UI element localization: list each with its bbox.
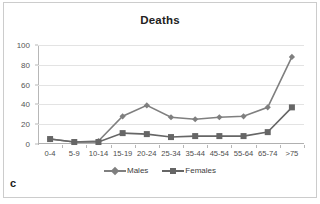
x-tick-label: >75 — [285, 149, 298, 158]
data-point-marker — [240, 113, 246, 119]
data-point-marker — [289, 54, 295, 60]
x-tick-mark — [256, 145, 257, 148]
x-tick-label: 25-34 — [161, 149, 180, 158]
data-point-marker — [241, 133, 247, 139]
chart-title: Deaths — [0, 14, 320, 26]
x-tick-mark — [62, 145, 63, 148]
y-tick-label: 20 — [21, 120, 30, 129]
legend-item-females[interactable]: Females — [162, 166, 216, 175]
data-point-marker — [289, 104, 295, 110]
x-tick-mark — [135, 145, 136, 148]
panel-letter: c — [10, 178, 16, 189]
x-tick-mark — [159, 145, 160, 148]
x-tick-label: 20-24 — [137, 149, 156, 158]
x-tick-mark — [231, 145, 232, 148]
x-tick-label: 10-14 — [89, 149, 108, 158]
x-tick-mark — [304, 145, 305, 148]
legend-label: Males — [127, 166, 148, 175]
x-tick-mark — [207, 145, 208, 148]
y-tick-label: 60 — [21, 80, 30, 89]
legend-label: Females — [185, 166, 216, 175]
plot-area — [38, 45, 304, 144]
legend-swatch-icon — [104, 167, 126, 175]
data-point-marker — [265, 104, 271, 110]
data-point-marker — [216, 114, 222, 120]
x-tick-label: 5-9 — [69, 149, 80, 158]
x-tick-label: 45-54 — [210, 149, 229, 158]
series-layer — [38, 45, 304, 144]
x-tick-mark — [280, 145, 281, 148]
data-point-marker — [144, 102, 150, 108]
y-tick-label: 100 — [17, 41, 30, 50]
x-tick-label: 35-44 — [185, 149, 204, 158]
data-point-marker — [47, 136, 53, 142]
data-point-marker — [120, 130, 126, 136]
data-point-marker — [95, 139, 101, 145]
x-tick-mark — [86, 145, 87, 148]
x-tick-label: 0-4 — [45, 149, 56, 158]
chart-legend: MalesFemales — [0, 166, 320, 175]
x-tick-mark — [183, 145, 184, 148]
series-males — [47, 54, 295, 145]
data-point-marker — [216, 133, 222, 139]
y-tick-label: 0 — [26, 140, 30, 149]
data-point-marker — [168, 114, 174, 120]
x-tick-mark — [111, 145, 112, 148]
x-tick-label: 15-19 — [113, 149, 132, 158]
legend-item-males[interactable]: Males — [104, 166, 148, 175]
legend-swatch-icon — [162, 167, 184, 175]
y-axis-labels: 020406080100 — [6, 45, 34, 144]
y-tick-label: 40 — [21, 100, 30, 109]
data-point-marker — [192, 116, 198, 122]
data-point-marker — [192, 133, 198, 139]
data-point-marker — [168, 134, 174, 140]
x-axis-labels: 0-45-910-1415-1920-2425-3435-4445-5455-6… — [38, 148, 304, 162]
data-point-marker — [71, 139, 77, 145]
data-point-marker — [265, 129, 271, 135]
x-tick-label: 55-64 — [234, 149, 253, 158]
x-tick-label: 65-74 — [258, 149, 277, 158]
chart-screenshot: Deaths 020406080100 0-45-910-1415-1920-2… — [0, 0, 320, 204]
y-tick-label: 80 — [21, 60, 30, 69]
series-line — [50, 57, 292, 142]
data-point-marker — [144, 131, 150, 137]
